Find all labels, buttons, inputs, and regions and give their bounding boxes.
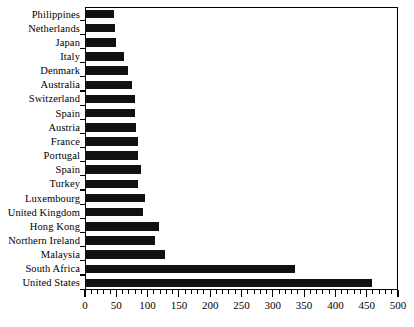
y-axis-label: Italy — [60, 51, 80, 62]
bar-row — [85, 21, 398, 35]
x-axis-tick-label: 100 — [139, 299, 156, 312]
x-axis-minor-tick — [172, 290, 173, 294]
bar — [85, 109, 135, 117]
bar — [85, 123, 136, 131]
y-axis-label: Northern Ireland — [8, 235, 80, 246]
x-axis-minor-tick — [228, 290, 229, 294]
x-axis-tick-label: 250 — [233, 299, 250, 312]
x-axis-minor-tick — [360, 290, 361, 294]
bars-layer — [85, 7, 398, 290]
x-axis-major-tick — [210, 290, 211, 297]
y-axis-label: South Africa — [25, 263, 80, 274]
y-axis-label: Turkey — [49, 178, 80, 189]
x-axis-minor-tick — [191, 290, 192, 294]
x-axis-minor-tick — [203, 290, 204, 294]
y-axis-label: Japan — [56, 37, 80, 48]
x-axis-major-tick — [304, 290, 305, 297]
x-axis-tick-label: 200 — [202, 299, 219, 312]
bar-row — [85, 64, 398, 78]
x-axis-minor-tick — [110, 290, 111, 294]
bar-row — [85, 248, 398, 262]
x-axis-minor-tick — [379, 290, 380, 294]
bar-chart: PhilippinesNetherlandsJapanItalyDenmarkA… — [0, 0, 414, 327]
bar — [85, 208, 143, 216]
x-axis-minor-tick — [97, 290, 98, 294]
x-axis-minor-tick — [222, 290, 223, 294]
bar — [85, 137, 138, 145]
x-axis-major-tick — [178, 290, 179, 297]
bar — [85, 10, 114, 18]
bar-row — [85, 120, 398, 134]
x-axis-minor-tick — [391, 290, 392, 294]
x-axis-minor-tick — [247, 290, 248, 294]
y-axis-label: United Kingdom — [8, 207, 80, 218]
x-axis-tick-label: 50 — [111, 299, 122, 312]
x-axis-tick-label: 450 — [358, 299, 375, 312]
bar — [85, 236, 155, 244]
y-axis-label: Philippines — [32, 9, 80, 20]
x-axis-minor-tick — [310, 290, 311, 294]
x-axis-tick-label: 500 — [390, 299, 407, 312]
x-axis-minor-tick — [341, 290, 342, 294]
bar — [85, 194, 145, 202]
x-axis-tick-labels: 050100150200250300350400450500 — [85, 299, 398, 317]
y-axis-label: United States — [22, 277, 80, 288]
x-axis-major-tick — [84, 290, 85, 297]
x-axis-major-tick — [335, 290, 336, 297]
x-axis-minor-tick — [347, 290, 348, 294]
x-axis-minor-tick — [385, 290, 386, 294]
x-axis-major-tick — [397, 290, 398, 297]
x-axis-tick-label: 300 — [265, 299, 282, 312]
x-axis-minor-tick — [322, 290, 323, 294]
x-axis-major-tick — [366, 290, 367, 297]
bar-row — [85, 35, 398, 49]
bar-row — [85, 106, 398, 120]
y-axis-label: Netherlands — [28, 23, 80, 34]
x-axis-minor-tick — [297, 290, 298, 294]
bar — [85, 151, 138, 159]
x-axis-minor-tick — [285, 290, 286, 294]
bar-row — [85, 177, 398, 191]
x-axis-minor-tick — [266, 290, 267, 294]
bar — [85, 38, 116, 46]
x-axis-minor-tick — [316, 290, 317, 294]
y-axis-label: Austria — [48, 122, 80, 133]
x-axis-minor-tick — [291, 290, 292, 294]
x-axis-minor-tick — [128, 290, 129, 294]
y-axis-label: Hong Kong — [30, 221, 80, 232]
x-axis-minor-tick — [153, 290, 154, 294]
bar-row — [85, 262, 398, 276]
x-axis-minor-tick — [91, 290, 92, 294]
x-axis-minor-tick — [135, 290, 136, 294]
x-axis-minor-tick — [329, 290, 330, 294]
x-axis-minor-tick — [260, 290, 261, 294]
y-axis-label: Australia — [41, 79, 80, 90]
bar — [85, 81, 132, 89]
x-axis-minor-tick — [279, 290, 280, 294]
y-axis-label: Spain — [56, 164, 80, 175]
x-axis-minor-tick — [216, 290, 217, 294]
y-axis-label: Switzerland — [29, 93, 80, 104]
x-axis-minor-tick — [166, 290, 167, 294]
bar-row — [85, 78, 398, 92]
bar-row — [85, 49, 398, 63]
y-axis-category-labels: PhilippinesNetherlandsJapanItalyDenmarkA… — [0, 7, 84, 290]
bar — [85, 265, 295, 273]
bar — [85, 250, 165, 258]
x-axis-minor-tick — [235, 290, 236, 294]
bar-row — [85, 163, 398, 177]
y-axis-label: Luxembourg — [25, 193, 80, 204]
bar — [85, 66, 128, 74]
x-axis-tick-label: 0 — [82, 299, 88, 312]
bar — [85, 95, 135, 103]
bar-row — [85, 233, 398, 247]
x-axis-tick-label: 400 — [327, 299, 344, 312]
x-axis-tick-label: 350 — [296, 299, 313, 312]
bar-row — [85, 149, 398, 163]
y-axis-label: Denmark — [40, 65, 80, 76]
x-axis-major-tick — [147, 290, 148, 297]
bar-row — [85, 191, 398, 205]
y-axis-label: Spain — [56, 108, 80, 119]
y-axis-label: France — [51, 136, 80, 147]
y-axis-label: Malaysia — [41, 249, 80, 260]
